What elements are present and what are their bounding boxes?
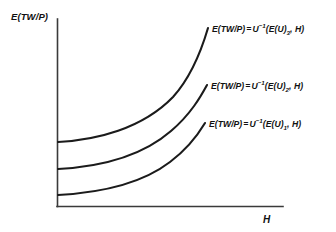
curve-label-arg-main: E(U) bbox=[268, 81, 286, 91]
curve-series-2 bbox=[58, 85, 207, 169]
curve-label-arg-close: ) bbox=[301, 24, 304, 34]
curve-label-lhs: E(TW/P) bbox=[212, 24, 245, 34]
plot-area bbox=[0, 0, 336, 232]
curve-label-exponent: −1 bbox=[258, 79, 265, 86]
curve-label-arg-close: ) bbox=[300, 81, 303, 91]
curve-series-3 bbox=[58, 28, 208, 142]
curve-series-1 bbox=[58, 123, 205, 195]
curve-label-arg-main: E(U) bbox=[269, 24, 287, 34]
curves-group bbox=[58, 28, 208, 195]
curve-label-lhs: E(TW/P) bbox=[209, 119, 242, 129]
curve-label-series-1: E(TW/P)=U−1(E(U)1, H) bbox=[209, 120, 301, 129]
y-axis-label: E(TW/P) bbox=[11, 11, 48, 22]
curve-label-series-2: E(TW/P)=U−1(E(U)2, H) bbox=[211, 82, 303, 91]
curve-label-lhs: E(TW/P) bbox=[211, 81, 244, 91]
curve-label-series-3: E(TW/P)=U−1(E(U)3, H) bbox=[212, 25, 304, 34]
axes-group bbox=[57, 19, 283, 207]
curve-label-arg-close: ) bbox=[298, 119, 301, 129]
curve-label-exponent: −1 bbox=[259, 22, 266, 29]
x-axis-label: H bbox=[263, 214, 270, 225]
figure-canvas: E(TW/P) H E(TW/P)=U−1(E(U)3, H) E(TW/P)=… bbox=[0, 0, 336, 232]
curve-label-exponent: −1 bbox=[256, 117, 263, 124]
curve-label-arg-main: E(U) bbox=[266, 119, 284, 129]
